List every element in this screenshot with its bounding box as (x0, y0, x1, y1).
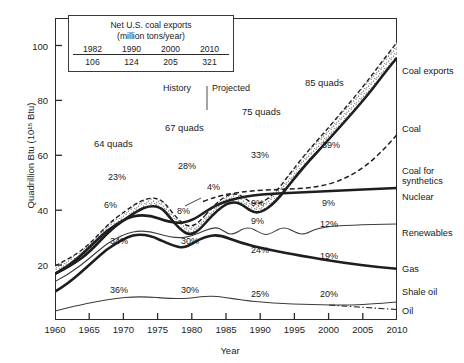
series-label-coal-exports: Coal exports (402, 66, 454, 77)
total-annotation-75-quads: 75 quads (242, 106, 281, 117)
xtick-label-2010: 2010 (380, 324, 414, 335)
series-label-oil: Oil (402, 306, 413, 317)
share-coal-33: 33% (251, 150, 269, 160)
share-renewables-12: 12% (320, 219, 338, 229)
projected-label: Projected (212, 83, 250, 93)
chart-root: 100 80 60 40 20 Quadrillion Btu (10¹⁵ Bt… (0, 0, 464, 363)
inset-header-1982: 1982 (73, 44, 112, 55)
share-nuclear-8: 8% (177, 206, 190, 216)
inset-header-2010: 2010 (190, 44, 229, 55)
shale-oil-top-line (55, 296, 397, 311)
share-oil-25: 25% (251, 289, 269, 299)
series-label-gas: Gas (402, 264, 419, 275)
xtick-label-1970: 1970 (106, 324, 140, 335)
series-label-nuclear: Nuclear (402, 192, 434, 203)
share-oil-20: 20% (320, 289, 338, 299)
inset-header-1990: 1990 (112, 44, 151, 55)
inset-value-2000: 205 (151, 55, 190, 69)
coal-exports-inset-box: Net U.S. coal exports (million tons/year… (68, 15, 234, 72)
xtick-label-1995: 1995 (277, 324, 311, 335)
xtick-label-1960: 1960 (38, 324, 72, 335)
xtick-label-1975: 1975 (141, 324, 175, 335)
gas-top-line (55, 235, 397, 292)
series-label-coal: Coal (402, 124, 421, 135)
share-coal-28: 28% (178, 161, 196, 171)
share-coal-23: 23% (108, 172, 126, 182)
ytick-label-100: 100 (18, 41, 48, 52)
share-synthetics-4: 4% (207, 182, 220, 192)
xtick-label-1965: 1965 (72, 324, 106, 335)
share-coal-39: 39% (322, 140, 340, 150)
inset-value-2010: 321 (190, 55, 229, 69)
share-gas-30: 30% (181, 236, 199, 246)
inset-table: 1982 1990 2000 2010 106 124 205 321 (73, 44, 229, 68)
synthetics-leader-line (185, 198, 201, 206)
xtick-label-2005: 2005 (346, 324, 380, 335)
share-nuclear-9: 9% (251, 198, 264, 208)
share-gas-19: 19% (320, 251, 338, 261)
xtick-label-2000: 2000 (312, 324, 346, 335)
inset-header-2000: 2000 (151, 44, 190, 55)
share-oil-30: 30% (181, 285, 199, 295)
xtick-label-1985: 1985 (209, 324, 243, 335)
total-annotation-85-quads: 85 quads (305, 77, 344, 88)
y-axis-label: Quadrillion Btu (10¹⁵ Btu) (25, 71, 36, 241)
xtick-label-1990: 1990 (243, 324, 277, 335)
xtick-label-1980: 1980 (175, 324, 209, 335)
series-label-shale-oil: Shale oil (402, 287, 437, 298)
ytick-label-20: 20 (18, 260, 48, 271)
series-label-coal-synthetics-line2: synthetics (402, 176, 443, 187)
oil-top-line-projected (329, 305, 397, 310)
share-gas-34: 34% (110, 236, 128, 246)
series-label-coal-synthetics-line1: Coal for (402, 166, 434, 177)
share-oil-36: 36% (110, 285, 128, 295)
coal-exports-band (55, 43, 397, 274)
inset-value-row: 106 124 205 321 (73, 55, 229, 69)
inset-header-row: 1982 1990 2000 2010 (73, 44, 229, 55)
x-axis-label: Year (180, 345, 280, 356)
inset-value-1982: 106 (73, 55, 112, 69)
total-annotation-67-quads: 67 quads (165, 122, 204, 133)
share-renewables-9: 9% (251, 216, 264, 226)
series-label-renewables: Renewables (402, 228, 453, 239)
share-nuclear-9b: 9% (322, 198, 335, 208)
inset-value-1990: 124 (112, 55, 151, 69)
history-label: History (163, 83, 191, 93)
share-gas-24: 24% (251, 245, 269, 255)
share-nuclear-6: 6% (104, 200, 117, 210)
total-annotation-64-quads: 64 quads (94, 138, 133, 149)
inset-title-line1: Net U.S. coal exports (73, 20, 229, 31)
inset-title-line2: (million tons/year) (73, 31, 229, 42)
